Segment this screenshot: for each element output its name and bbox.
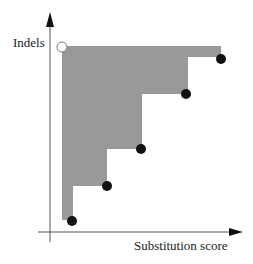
pareto-point-4 <box>181 89 191 99</box>
pareto-point-3 <box>136 144 146 154</box>
x-axis-arrow-icon <box>229 228 243 236</box>
shaded-region <box>62 46 221 220</box>
pareto-point-5 <box>216 54 226 64</box>
y-axis-arrow-icon <box>46 12 54 27</box>
pareto-point-2 <box>102 181 112 191</box>
pareto-staircase-diagram: Indels Substitution score <box>0 0 253 264</box>
pareto-point-1 <box>67 216 77 226</box>
x-axis-label: Substitution score <box>134 238 228 253</box>
open-point <box>57 42 67 52</box>
y-axis-label: Indels <box>13 35 45 50</box>
